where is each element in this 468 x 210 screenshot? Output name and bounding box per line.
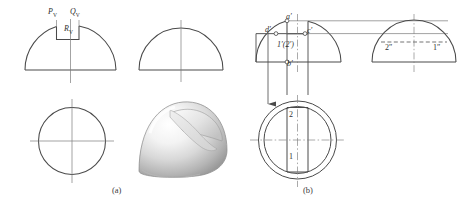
label-1-double-prime: 1″ <box>433 44 440 52</box>
label-c-prime: c′ <box>307 27 312 35</box>
b-top-view <box>250 95 345 187</box>
point-d-prime <box>274 32 278 36</box>
label-a-prime: a′ <box>286 13 292 21</box>
caption-b: (b) <box>303 185 313 195</box>
label-1-2-prime: 1′(2′) <box>277 41 294 49</box>
label-2-top-view: 2 <box>289 111 293 119</box>
label-d-prime: d′ <box>265 26 271 34</box>
b-projection-lines <box>256 21 448 34</box>
label-1-top-view: 1 <box>289 153 293 161</box>
label-2-double-prime: 2″ <box>385 44 392 52</box>
engineering-drawing-figure: PV QV RV <box>0 0 468 210</box>
label-b-prime: b′ <box>287 60 293 68</box>
caption-a: (a) <box>112 185 121 195</box>
part-b-geometry <box>0 0 468 210</box>
